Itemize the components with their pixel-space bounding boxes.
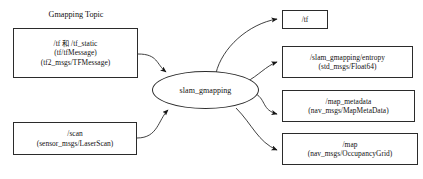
node-map-metadata-output-line-1: /map_metadata [326,97,372,106]
node-map-output-line-2: (nav_msgs/OccupancyGrid) [308,149,393,158]
node-tf-input: /tf 和 /tf_static (tf/tfMessage) (tf2_msg… [13,28,138,78]
node-map-output-line-1: /map [343,140,358,149]
node-slam-gmapping-label: slam_gmapping [180,86,232,95]
node-entropy-output: /slam_gmapping/entropy (std_msgs/Float64… [282,46,413,78]
node-tf-input-line-3: (tf2_msgs/TFMessage) [41,58,111,67]
gmapping-topic-diagram: Gmapping Topic /tf 和 /tf_static (tf/tfMe… [0,0,423,179]
edge-tf-to-slam [138,54,166,72]
node-map-metadata-output-line-2: (nav_msgs/MapMetaData) [308,106,388,115]
node-map-metadata-output: /map_metadata (nav_msgs/MapMetaData) [282,90,415,122]
node-scan-input-line-1: /scan [67,129,82,138]
node-scan-input-line-2: (sensor_msgs/LaserScan) [37,139,114,148]
node-entropy-output-line-2: (std_msgs/Float64) [319,62,377,71]
group-title-gmapping-topic: Gmapping Topic [22,10,130,19]
node-entropy-output-line-1: /slam_gmapping/entropy [310,53,385,62]
edge-slam-to-map-metadata [256,94,277,114]
edge-slam-to-map [236,108,277,150]
edge-slam-to-tf [216,19,277,73]
node-scan-input: /scan (sensor_msgs/LaserScan) [13,122,137,155]
edge-scan-to-slam [137,110,168,138]
node-tf-input-line-1: /tf 和 /tf_static [54,39,98,48]
node-tf-input-line-2: (tf/tfMessage) [54,48,97,57]
node-tf-output: /tf [282,10,328,29]
node-tf-output-line-1: /tf [302,15,309,24]
node-slam-gmapping: slam_gmapping [152,71,259,109]
node-map-output: /map (nav_msgs/OccupancyGrid) [282,133,418,165]
